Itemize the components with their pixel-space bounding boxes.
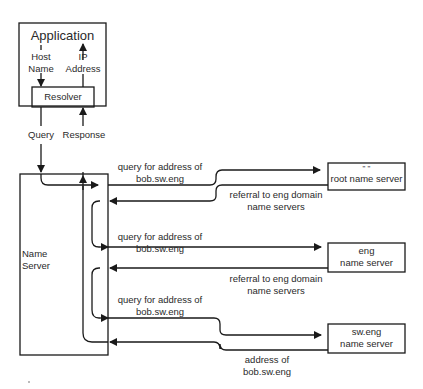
sweng-server-label: sw.eng name server <box>328 326 405 350</box>
host-name-label: Host Name <box>24 51 58 75</box>
root-server-label: " " root name server <box>328 164 405 185</box>
query-label: Query <box>24 129 58 141</box>
message-referral-eng: referral to eng domain name servers <box>224 273 328 297</box>
query-to-sweng-arrow <box>108 318 321 335</box>
resolver-label: Resolver <box>32 91 94 103</box>
name-server-label: Name Server <box>22 248 56 272</box>
message-query-eng: query for address of bob.sw.eng <box>115 231 205 255</box>
message-address: address of bob.sw.eng <box>232 354 302 378</box>
message-query-root: query for address of bob.sw.eng <box>115 161 205 185</box>
message-referral-root: referral to eng domain name servers <box>224 189 328 213</box>
stray-dot <box>28 381 30 383</box>
message-query-sweng: query for address of bob.sw.eng <box>115 294 205 318</box>
eng-server-label: eng name server <box>328 245 405 269</box>
response-label: Response <box>62 129 106 141</box>
application-title: Application <box>19 28 106 43</box>
address-response-arrow <box>110 342 328 350</box>
ip-address-label: IP Address <box>63 51 103 75</box>
